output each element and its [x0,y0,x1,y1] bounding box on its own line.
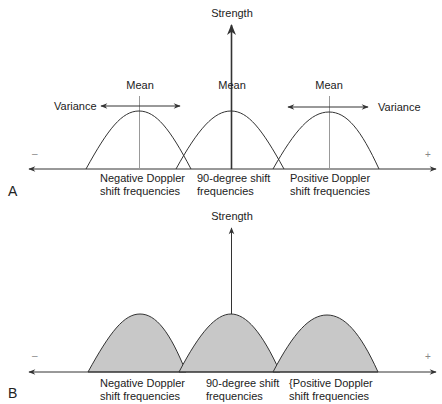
panel-b-positive-sign: + [425,351,431,362]
panel-b-curve-90deg [179,314,280,372]
panel-a [29,25,436,169]
panel-b-label-negative-doppler: Negative Doppler shift frequencies [100,377,185,403]
panel-a-variance-label-left: Variance [54,100,97,113]
panel-b-negative-sign: – [32,350,38,361]
panel-a-strength-label: Strength [211,7,253,20]
panel-a-negative-sign: – [32,148,38,159]
panel-a-curve-negative [86,111,191,169]
panel-a-label-90deg-shift: 90-degree shift frequencies [197,172,270,198]
panel-b-label-90deg-shift: 90-degree shift frequencies [206,377,279,403]
panel-a-curve-positive [273,112,379,169]
panel-b-curve-negative [88,314,186,372]
panel-b-label-positive-doppler: {Positive Doppler shift frequencies [289,377,373,403]
panel-a-mean-label-90deg: Mean [218,79,246,92]
panel-a-mean-label-positive: Mean [315,79,343,92]
doppler-diagram [0,0,442,404]
panel-a-letter: A [8,183,17,199]
panel-a-mean-label-negative: Mean [126,79,154,92]
panel-b-strength-label: Strength [211,210,253,223]
panel-a-curve-90deg [176,111,284,169]
panel-b-letter: B [8,385,17,401]
panel-a-variance-label-right: Variance [378,101,421,114]
panel-b-curve-positive [273,315,378,372]
panel-b [29,228,436,372]
panel-a-label-positive-doppler: Positive Doppler shift frequencies [290,172,370,198]
panel-a-label-negative-doppler: Negative Doppler shift frequencies [100,172,185,198]
panel-a-positive-sign: + [425,149,431,160]
